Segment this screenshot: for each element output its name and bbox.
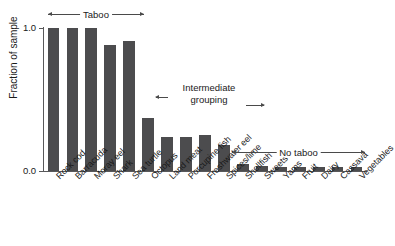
annotation-intermediate-label: Intermediate grouping	[170, 82, 248, 105]
bar-rock-cod	[44, 28, 63, 171]
bar-rect	[85, 28, 97, 171]
annotation-no-taboo-label: No taboo	[276, 147, 321, 158]
arrow-left-icon	[156, 97, 168, 98]
x-axis-tick-labels: Rock codBarracudaMoray eelSharkSea turtl…	[44, 172, 366, 246]
y-tick-label-bottom: 0.0	[0, 165, 36, 176]
arrow-left-icon	[48, 12, 52, 16]
annotation-intermediate-grouping: Intermediate grouping	[156, 86, 262, 112]
y-axis-title: Fraction of sample	[8, 0, 19, 118]
bar-rect	[48, 28, 60, 171]
y-tick-mark-bottom	[39, 171, 43, 172]
arrow-right-icon	[361, 150, 365, 154]
arrow-right-icon	[140, 12, 144, 16]
annotation-intermediate-line2: grouping	[191, 94, 228, 105]
y-tick-mark-top	[39, 28, 43, 29]
arrow-right-icon	[246, 105, 264, 106]
y-tick-label-top: 1.0	[0, 22, 36, 33]
arrow-left-icon	[232, 150, 236, 154]
bar-cassava	[328, 28, 347, 171]
annotation-taboo-label: Taboo	[80, 9, 112, 20]
annotation-intermediate-line1: Intermediate	[183, 82, 236, 93]
